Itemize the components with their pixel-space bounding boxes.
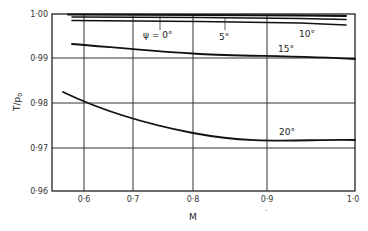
x-axis-ticks: 0·6 0·7 0·8 0·9 1·0 xyxy=(78,195,360,204)
chart: ψ = 0° 5° 10° 15° 20° 1·00 0·99 0·98 0·9… xyxy=(0,0,368,231)
svg-text:0·99: 0·99 xyxy=(30,54,48,63)
y-axis-ticks: 1·00 0·99 0·98 0·97 0·96 xyxy=(30,10,48,196)
y-axis-title: T/p0 xyxy=(12,93,23,112)
label-psi-15: 15° xyxy=(278,44,294,54)
label-psi-5: 5° xyxy=(219,32,229,42)
svg-text:1·00: 1·00 xyxy=(30,10,48,19)
svg-text:0·7: 0·7 xyxy=(127,195,140,204)
stray-mark: - xyxy=(265,206,267,213)
svg-text:0·97: 0·97 xyxy=(30,144,48,153)
curve-psi-5 xyxy=(72,17,346,20)
x-axis-title: M xyxy=(189,212,197,222)
curve-psi-10 xyxy=(72,21,346,26)
curve-psi-0 xyxy=(68,15,346,17)
svg-text:0·8: 0·8 xyxy=(187,195,200,204)
svg-text:T/p0: T/p0 xyxy=(12,93,23,112)
label-psi-10: 10° xyxy=(299,29,315,39)
svg-text:0·9: 0·9 xyxy=(261,195,274,204)
grid xyxy=(52,14,355,191)
svg-text:0·96: 0·96 xyxy=(30,187,48,196)
label-psi-0: ψ = 0° xyxy=(143,30,172,40)
curve-psi-15 xyxy=(72,44,355,59)
svg-text:0·6: 0·6 xyxy=(78,195,91,204)
label-psi-20: 20° xyxy=(279,127,295,137)
svg-text:0·98: 0·98 xyxy=(30,99,48,108)
svg-text:1·0: 1·0 xyxy=(347,195,360,204)
curve-psi-20 xyxy=(63,92,355,141)
